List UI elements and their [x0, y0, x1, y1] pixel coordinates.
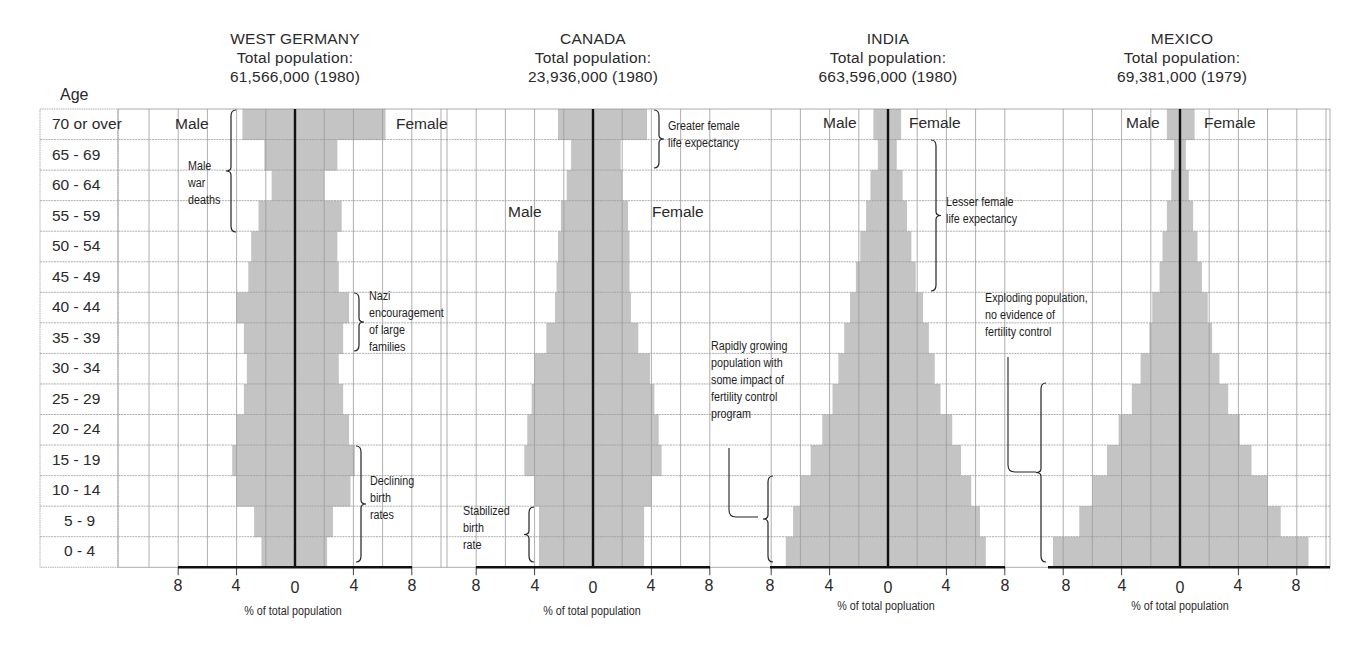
female-bar: [593, 292, 631, 323]
annotation-lesser-female-life-expectancy: Lesser female life expectancy: [946, 194, 1017, 228]
population-subtitle: Total population:: [1082, 48, 1282, 67]
x-tick-label: 8: [1062, 577, 1071, 595]
male-label-canada: Male: [508, 203, 542, 221]
country-title: MEXICO: [1082, 29, 1282, 48]
male-bar: [546, 323, 593, 354]
x-axis-label-canada: % of total population: [543, 604, 640, 618]
x-tick-label: 4: [647, 577, 656, 595]
female-bar: [888, 140, 897, 171]
population-value: 69,381,000 (1979): [1082, 67, 1282, 86]
male-bar: [555, 292, 593, 323]
country-title: INDIA: [788, 29, 988, 48]
female-bar: [888, 506, 980, 537]
brace-nazi-encouragement-icon: [354, 293, 364, 351]
female-bar: [1180, 353, 1219, 384]
female-bar: [888, 201, 907, 232]
male-bar: [571, 140, 593, 171]
female-bar: [888, 445, 961, 476]
x-axis-label-west-germany: % of total population: [244, 604, 341, 618]
female-bar: [295, 262, 339, 293]
male-bar: [1053, 537, 1180, 568]
annotation-male-war-deaths: Male war deaths: [188, 158, 220, 209]
female-bar: [593, 506, 644, 537]
male-bar: [1119, 415, 1180, 446]
male-bar: [866, 201, 888, 232]
female-bar: [295, 323, 343, 354]
panel-header-west-germany: WEST GERMANY Total population: 61,566,00…: [195, 29, 395, 86]
female-bar: [295, 353, 339, 384]
male-bar: [822, 415, 888, 446]
male-bar: [244, 323, 295, 354]
male-bar: [261, 537, 295, 568]
male-bar: [1141, 353, 1180, 384]
female-bar: [888, 353, 935, 384]
male-bar: [558, 109, 593, 140]
age-label: 30 - 34: [52, 359, 100, 377]
annotation-rapidly-growing-population: Rapidly growing population with some imp…: [711, 338, 787, 423]
female-label-mexico: Female: [1204, 114, 1256, 132]
brace-male-war-deaths-icon: [226, 110, 236, 232]
male-bar: [856, 262, 888, 293]
panel-header-canada: CANADA Total population: 23,936,000 (198…: [493, 29, 693, 86]
female-bar: [593, 109, 647, 140]
female-bar: [593, 415, 659, 446]
female-bar: [1180, 292, 1208, 323]
population-subtitle: Total population:: [788, 48, 988, 67]
female-bar: [593, 201, 628, 232]
country-title: CANADA: [493, 29, 693, 48]
x-tick-label: 8: [1292, 577, 1301, 595]
male-bar: [558, 231, 593, 262]
male-bar: [870, 170, 888, 201]
female-bar: [593, 231, 630, 262]
male-bar: [1132, 384, 1180, 415]
female-bar: [593, 140, 621, 171]
male-bar: [264, 140, 295, 171]
female-bar: [295, 384, 343, 415]
annotation-stabilized-birth-rate: Stabilized birth rate: [463, 503, 510, 554]
brace-lesser-female-life-expectancy-icon: [931, 140, 941, 291]
female-bar: [295, 506, 333, 537]
female-bar: [295, 170, 324, 201]
female-bar: [888, 292, 923, 323]
female-bar: [295, 415, 349, 446]
male-bar: [1152, 292, 1180, 323]
male-bar: [259, 201, 296, 232]
female-bar: [1180, 384, 1228, 415]
age-label: 55 - 59: [52, 207, 100, 225]
female-bar: [295, 109, 386, 140]
x-tick-label: 8: [408, 577, 417, 595]
brace-stabilized-birth-rate-icon: [524, 507, 534, 562]
leader-line-india: [729, 448, 758, 517]
x-tick-label: 8: [174, 577, 183, 595]
male-bar: [811, 445, 888, 476]
panel-header-mexico: MEXICO Total population: 69,381,000 (197…: [1082, 29, 1282, 86]
population-value: 23,936,000 (1980): [493, 67, 693, 86]
male-bar: [1171, 170, 1180, 201]
female-bar: [295, 201, 342, 232]
x-tick-label: 8: [1001, 577, 1010, 595]
female-bar: [888, 231, 911, 262]
male-bar: [539, 537, 593, 568]
male-bar: [844, 323, 888, 354]
age-label: 65 - 69: [52, 146, 100, 164]
male-label-india: Male: [823, 114, 857, 132]
annotation-greater-female-life-expectancy: Greater female life expectancy: [668, 118, 740, 152]
male-bar: [1149, 323, 1180, 354]
female-label-west-germany: Female: [396, 115, 448, 133]
age-label: 50 - 54: [52, 237, 100, 255]
female-bar: [1180, 445, 1252, 476]
x-tick-label: 8: [472, 577, 481, 595]
annotation-declining-birth-rates: Declining birth rates: [370, 473, 414, 524]
population-subtitle: Total population:: [493, 48, 693, 67]
male-bar: [838, 353, 888, 384]
male-bar: [248, 262, 295, 293]
female-bar: [1180, 415, 1240, 446]
female-bar: [1180, 323, 1212, 354]
x-tick-label: 4: [1234, 577, 1243, 595]
age-label: 40 - 44: [52, 298, 100, 316]
x-tick-label: 8: [766, 577, 775, 595]
male-bar: [1167, 201, 1180, 232]
x-tick-label: 4: [825, 577, 834, 595]
female-bar: [593, 353, 650, 384]
brace-declining-birth-rates-icon: [356, 446, 366, 562]
